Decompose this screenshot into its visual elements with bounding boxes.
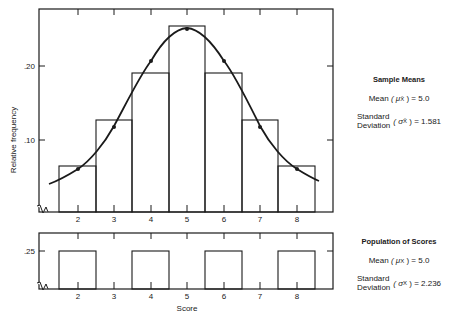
sd-symbol: ( σ — [393, 117, 403, 126]
upper-plot-frame — [39, 9, 333, 212]
bar-5 — [169, 26, 205, 212]
mean-subscript: X̄ — [400, 96, 404, 102]
bar-6 — [205, 73, 242, 212]
sd-symbol: ( σ — [393, 279, 403, 288]
mean-symbol: ( μ — [391, 256, 400, 265]
upper-y-ticks — [39, 66, 333, 140]
svg-text:7: 7 — [258, 292, 263, 301]
mean-value: ) = 5.0 — [406, 94, 429, 103]
y-tick-label-25: .25 — [24, 247, 36, 256]
svg-text:4: 4 — [149, 215, 154, 224]
sd-label: StandardDeviation — [357, 112, 390, 130]
svg-text:3: 3 — [112, 292, 117, 301]
sd-subscript: X̄ — [403, 118, 407, 124]
mean-subscript: X — [400, 258, 404, 264]
sample-mean-row: Mean ( μ X̄ ) = 5.0 — [340, 94, 458, 103]
y-tick-label-10: .10 — [24, 136, 36, 145]
sd-value: ) = 2.236 — [409, 279, 441, 288]
sd-value: ) = 1.581 — [409, 117, 441, 126]
svg-text:5: 5 — [185, 292, 190, 301]
svg-text:3: 3 — [112, 215, 117, 224]
upper-x-tick-labels: 234 5678 — [76, 215, 300, 224]
svg-text:8: 8 — [295, 215, 300, 224]
svg-text:2: 2 — [76, 215, 81, 224]
mean-label: Mean — [369, 94, 389, 103]
population-panel: Population of Scores Mean ( μ X ) = 5.0 … — [340, 237, 458, 301]
bar-3 — [96, 120, 132, 212]
population-sd-row: StandardDeviation ( σ X ) = 2.236 — [340, 274, 458, 292]
population-title: Population of Scores — [340, 237, 458, 246]
mean-label: Mean — [369, 256, 389, 265]
population-mean-row: Mean ( μ X ) = 5.0 — [340, 256, 458, 265]
svg-text:2: 2 — [76, 292, 81, 301]
mean-value: ) = 5.0 — [406, 256, 429, 265]
lower-ticks — [39, 233, 333, 289]
curve-points — [76, 27, 299, 171]
svg-text:5: 5 — [185, 215, 190, 224]
svg-text:8: 8 — [295, 292, 300, 301]
lower-plot-frame — [39, 233, 333, 289]
upper-top-ticks — [78, 9, 297, 15]
sample-sd-row: StandardDeviation ( σ X̄ ) = 1.581 — [340, 112, 458, 130]
x-axis-label: Score — [177, 304, 198, 313]
svg-text:4: 4 — [149, 292, 154, 301]
sample-means-panel: Sample Means Mean ( μ X̄ ) = 5.0 Standar… — [340, 75, 458, 139]
mean-symbol: ( μ — [391, 94, 400, 103]
y-tick-label-20: .20 — [24, 62, 36, 71]
bar-4 — [132, 73, 169, 212]
y-axis-label: Relative frequency — [9, 107, 18, 173]
svg-text:6: 6 — [222, 292, 227, 301]
sample-means-title: Sample Means — [340, 75, 458, 84]
svg-text:7: 7 — [258, 215, 263, 224]
lower-x-tick-labels: 234 5678 — [76, 292, 300, 301]
sd-label: StandardDeviation — [357, 274, 390, 292]
sd-subscript: X — [403, 280, 407, 286]
upper-histogram-bars — [59, 26, 315, 212]
upper-bottom-ticks — [78, 205, 297, 212]
svg-text:6: 6 — [222, 215, 227, 224]
bar-7 — [242, 120, 278, 212]
